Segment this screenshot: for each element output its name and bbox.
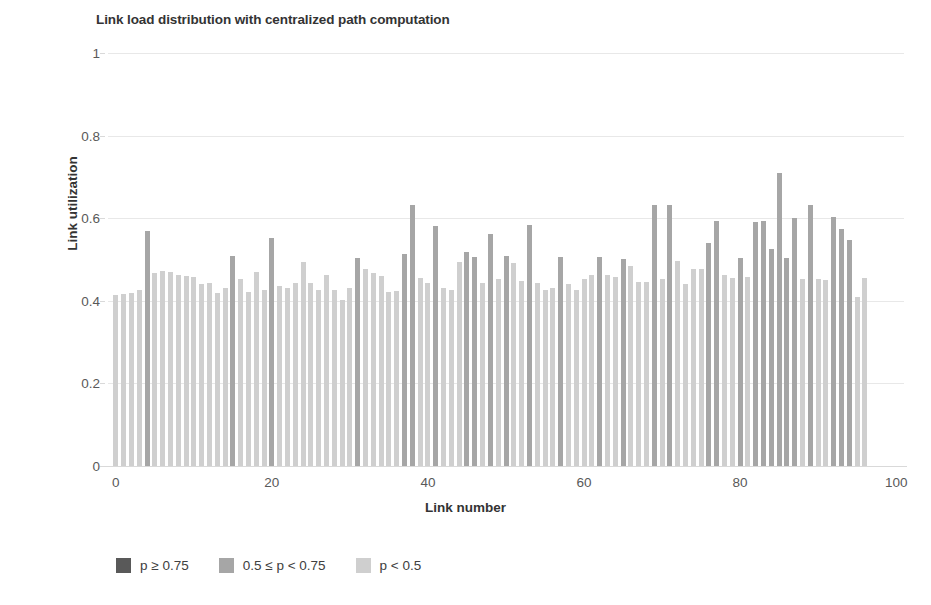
bar [496, 279, 501, 466]
bar [207, 283, 212, 466]
bar [589, 275, 594, 466]
bar [145, 231, 150, 466]
bar [215, 293, 220, 466]
x-axis-ticks: 020406080100 [108, 467, 904, 497]
bar [394, 291, 399, 466]
bar [332, 290, 337, 466]
bar [691, 269, 696, 466]
bar [706, 243, 711, 466]
bar [862, 278, 867, 466]
bar [379, 276, 384, 466]
chart-title: Link load distribution with centralized … [96, 12, 450, 27]
y-tick-label: 0.8 [60, 128, 100, 143]
bar [535, 283, 540, 466]
bar [254, 272, 259, 466]
bar [831, 217, 836, 466]
bar [199, 284, 204, 466]
x-tick-label: 20 [264, 475, 279, 490]
bar [613, 277, 618, 466]
bar [753, 222, 758, 466]
bar [449, 290, 454, 466]
bar [347, 288, 352, 466]
bar [425, 283, 430, 466]
bar [269, 238, 274, 466]
bar [441, 288, 446, 466]
bar [418, 278, 423, 466]
bar [597, 257, 602, 466]
legend-swatch-icon [356, 558, 371, 573]
bar [652, 205, 657, 466]
bar [137, 290, 142, 466]
bar [683, 284, 688, 466]
legend-label: 0.5 ≤ p < 0.75 [243, 558, 326, 573]
bar [230, 256, 235, 466]
bar [129, 293, 134, 466]
bar [722, 275, 727, 466]
y-tick-label: 0.6 [60, 211, 100, 226]
bar [543, 290, 548, 466]
bar [457, 262, 462, 466]
bar [433, 226, 438, 466]
bar [262, 290, 267, 466]
bar [238, 279, 243, 466]
bar [301, 262, 306, 466]
bar [566, 284, 571, 466]
bar [839, 229, 844, 466]
bar [184, 276, 189, 466]
bar [355, 258, 360, 466]
bar [113, 295, 118, 466]
bar [558, 257, 563, 466]
y-axis-ticks: 00.20.40.60.81 [48, 53, 100, 466]
x-tick-label: 60 [577, 475, 592, 490]
y-tick-mark [100, 136, 105, 137]
link-utilization-bar-chart: Link load distribution with centralized … [0, 0, 931, 605]
legend-item-medium[interactable]: 0.5 ≤ p < 0.75 [219, 558, 326, 573]
bar [605, 275, 610, 466]
bar [730, 278, 735, 466]
bar [621, 259, 626, 466]
bar [792, 218, 797, 466]
bar [800, 279, 805, 466]
x-axis-title: Link number [0, 500, 931, 515]
plot-area [108, 53, 904, 466]
legend-label: p ≥ 0.75 [140, 558, 189, 573]
x-tick-label: 40 [420, 475, 435, 490]
legend-swatch-icon [219, 558, 234, 573]
bar [823, 280, 828, 466]
bar [340, 300, 345, 466]
legend-item-low[interactable]: p < 0.5 [356, 558, 422, 573]
bar [761, 221, 766, 466]
bar [285, 288, 290, 466]
x-tick-label: 100 [885, 475, 908, 490]
bar [410, 205, 415, 466]
y-tick-mark [100, 218, 105, 219]
legend-item-high[interactable]: p ≥ 0.75 [116, 558, 189, 573]
bar [550, 288, 555, 466]
y-tick-label: 1 [60, 46, 100, 61]
legend-swatch-icon [116, 558, 131, 573]
bar [246, 292, 251, 466]
bar [738, 258, 743, 466]
bar [152, 273, 157, 466]
bar [769, 249, 774, 466]
bar [745, 277, 750, 466]
y-tick-label: 0.4 [60, 293, 100, 308]
bar [386, 292, 391, 466]
bar [324, 275, 329, 466]
bar [699, 269, 704, 466]
x-tick-label: 80 [733, 475, 748, 490]
bar [472, 257, 477, 466]
bar [402, 254, 407, 466]
chart-legend: p ≥ 0.750.5 ≤ p < 0.75p < 0.5 [116, 558, 421, 573]
bar [777, 173, 782, 466]
bar [308, 283, 313, 466]
bar [847, 240, 852, 466]
bar [277, 286, 282, 466]
bar [160, 271, 165, 466]
bar [480, 283, 485, 466]
legend-label: p < 0.5 [380, 558, 422, 573]
bar [527, 225, 532, 466]
bar [816, 279, 821, 466]
bar [293, 283, 298, 466]
bar [644, 282, 649, 466]
